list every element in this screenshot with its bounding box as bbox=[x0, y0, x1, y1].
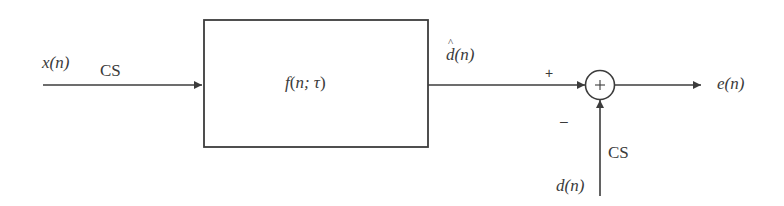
block-function-args: n; τ bbox=[295, 73, 320, 92]
error-signal-label: e(n) bbox=[717, 75, 744, 92]
estimate-signal-text: d(n) bbox=[446, 46, 474, 63]
minus-input-sign: – bbox=[560, 114, 568, 128]
reference-signal-label: d(n) bbox=[556, 177, 584, 194]
input-cs-annotation: CS bbox=[100, 62, 121, 79]
reference-cs-annotation: CS bbox=[608, 144, 629, 161]
block-function-label: f(n; τ) bbox=[285, 74, 326, 91]
block-function-name: f bbox=[285, 73, 290, 92]
input-signal-label: x(n) bbox=[42, 54, 69, 71]
estimate-signal-label: d(n) bbox=[446, 46, 474, 63]
plus-input-sign: + bbox=[545, 66, 553, 80]
block-diagram-canvas bbox=[0, 0, 784, 206]
